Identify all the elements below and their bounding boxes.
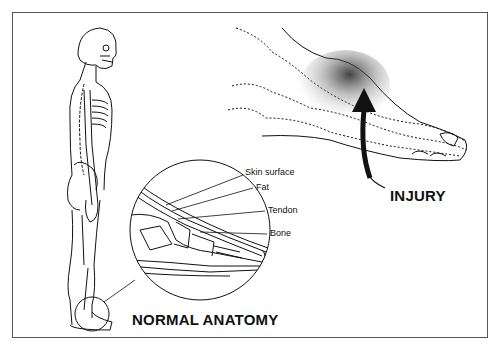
zoom-leader-line: [104, 280, 135, 302]
injury-bruise-shading: [300, 50, 390, 120]
standing-figure-skeleton: [68, 28, 117, 330]
label-bone: Bone: [270, 228, 291, 238]
normal-anatomy-title: NORMAL ANATOMY: [132, 311, 278, 328]
injury-title: INJURY: [390, 187, 446, 204]
magnified-foot-detail: [130, 160, 270, 300]
label-skin-surface: Skin surface: [245, 167, 295, 177]
label-tendon: Tendon: [268, 205, 298, 215]
label-fat: Fat: [256, 182, 269, 192]
